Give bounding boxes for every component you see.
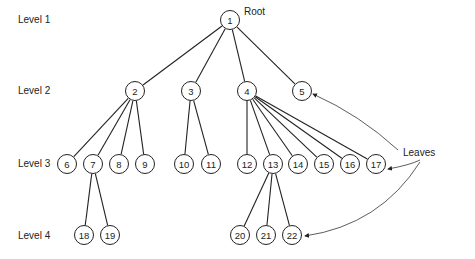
tree-edge: [98, 100, 130, 156]
root-label: Root: [244, 6, 265, 17]
tree-node: 8: [109, 154, 129, 174]
tree-node: 18: [74, 225, 94, 245]
tree-node: 19: [100, 225, 120, 245]
tree-edge: [250, 100, 269, 154]
tree-edge: [244, 173, 269, 226]
tree-edge: [232, 30, 244, 82]
tree-diagram: [0, 0, 475, 259]
level-label: Level 4: [18, 230, 50, 241]
tree-edge: [254, 98, 316, 157]
tree-node: 22: [282, 225, 302, 245]
tree-node: 9: [135, 154, 155, 174]
tree-edge: [121, 101, 133, 154]
tree-node: 11: [201, 154, 221, 174]
tree-node: 15: [314, 154, 334, 174]
tree-edge: [95, 174, 107, 226]
tree-node: 6: [57, 154, 77, 174]
level-label: Level 3: [18, 158, 50, 169]
tree-node: 5: [292, 81, 312, 101]
tree-node: 16: [340, 154, 360, 174]
tree-node: 13: [263, 154, 283, 174]
tree-node: 21: [256, 225, 276, 245]
tree-node: 7: [83, 154, 103, 174]
tree-node: 2: [125, 81, 145, 101]
tree-edge: [85, 174, 91, 225]
leaves-label: Leaves: [403, 147, 435, 158]
tree-edges: [74, 26, 367, 226]
level-label: Level 2: [18, 85, 50, 96]
tree-edge: [185, 101, 190, 154]
tree-node: 3: [181, 81, 201, 101]
tree-edge: [253, 99, 293, 156]
tree-node: 10: [174, 154, 194, 174]
tree-node: 12: [237, 154, 257, 174]
level-label: Level 1: [18, 14, 50, 25]
tree-node: 17: [366, 154, 386, 174]
tree-edge: [267, 174, 272, 225]
tree-node: 20: [230, 225, 250, 245]
tree-node: 4: [237, 81, 257, 101]
tree-edge: [196, 29, 225, 82]
tree-node: 1: [220, 10, 240, 30]
tree-edge: [136, 101, 143, 154]
tree-node: 14: [288, 154, 308, 174]
tree-edge: [276, 174, 290, 226]
tree-edge: [194, 101, 209, 155]
tree-edge: [237, 27, 295, 84]
tree-edge: [74, 98, 128, 156]
